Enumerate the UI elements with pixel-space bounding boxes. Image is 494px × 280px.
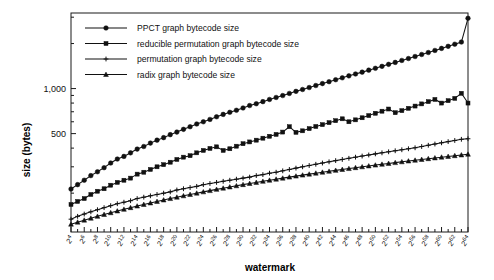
y-axis-tick-label: 500 — [51, 129, 66, 139]
x-axis-tick-label: 216 — [141, 233, 155, 247]
svg-text:252: 252 — [379, 233, 393, 247]
svg-text:228: 228 — [220, 233, 234, 247]
svg-text:254: 254 — [392, 233, 406, 247]
svg-text:216: 216 — [141, 233, 155, 247]
bytecode-size-line-chart: 5001,000 2426282102122142162182202222242… — [0, 0, 494, 280]
svg-text:218: 218 — [154, 233, 168, 247]
x-axis-tick-label: 264 — [458, 233, 472, 247]
x-axis-tick-label: 222 — [180, 233, 194, 247]
x-axis-tick-label: 218 — [154, 233, 168, 247]
svg-text:230: 230 — [233, 233, 247, 247]
svg-text:232: 232 — [247, 233, 261, 247]
x-axis-tick-label: 250 — [366, 233, 380, 247]
y-axis-tick-labels: 5001,000 — [43, 84, 66, 139]
x-axis-title: watermark — [244, 262, 295, 273]
x-axis-tick-label: 240 — [300, 233, 314, 247]
svg-text:258: 258 — [419, 233, 433, 247]
x-axis-tick-label: 238 — [286, 233, 300, 247]
svg-text:26: 26 — [76, 233, 89, 245]
x-axis-tick-label: 224 — [194, 233, 208, 247]
x-axis-tick-label: 236 — [273, 233, 287, 247]
x-axis-tick-label: 212 — [114, 233, 128, 247]
x-axis-tick-label: 242 — [313, 233, 327, 247]
x-axis-tick-label: 246 — [339, 233, 353, 247]
x-axis-tick-label: 226 — [207, 233, 221, 247]
x-axis-tick-labels: 2426282102122142162182202222242262282302… — [63, 233, 473, 247]
x-axis-tick-label: 248 — [352, 233, 366, 247]
legend-label: radix graph bytecode size — [137, 70, 235, 80]
legend-item-3[interactable]: permutation graph bytecode size — [85, 54, 262, 64]
chart-container: 5001,000 2426282102122142162182202222242… — [0, 0, 494, 280]
y-axis-ticks — [71, 17, 76, 193]
svg-text:224: 224 — [194, 233, 208, 247]
svg-text:234: 234 — [260, 233, 274, 247]
legend-item-2[interactable]: reducible permutation graph bytecode siz… — [85, 39, 299, 49]
x-axis-tick-label: 26 — [76, 233, 89, 245]
svg-text:238: 238 — [286, 233, 300, 247]
legend-item-4[interactable]: radix graph bytecode size — [85, 70, 235, 80]
x-axis-tick-label: 262 — [445, 233, 459, 247]
svg-text:220: 220 — [167, 233, 181, 247]
svg-text:244: 244 — [326, 233, 340, 247]
x-axis-tick-label: 230 — [233, 233, 247, 247]
x-axis-tick-label: 28 — [90, 233, 103, 245]
svg-text:222: 222 — [180, 233, 194, 247]
svg-text:242: 242 — [313, 233, 327, 247]
svg-text:226: 226 — [207, 233, 221, 247]
x-axis-tick-label: 252 — [379, 233, 393, 247]
svg-text:24: 24 — [63, 233, 76, 245]
series-4 — [69, 152, 471, 226]
legend-label: reducible permutation graph bytecode siz… — [137, 39, 299, 49]
x-axis-ticks — [71, 227, 468, 232]
x-axis-tick-label: 24 — [63, 233, 76, 245]
x-axis-tick-label: 214 — [127, 233, 141, 247]
x-axis-tick-label: 228 — [220, 233, 234, 247]
x-axis-tick-label: 220 — [167, 233, 181, 247]
svg-text:28: 28 — [90, 233, 103, 245]
svg-text:240: 240 — [300, 233, 314, 247]
chart-legend: PPCT graph bytecode sizereducible permut… — [85, 23, 299, 80]
x-axis-tick-label: 260 — [432, 233, 446, 247]
svg-text:264: 264 — [458, 233, 472, 247]
svg-text:256: 256 — [405, 233, 419, 247]
svg-text:210: 210 — [101, 233, 115, 247]
x-axis-tick-label: 258 — [419, 233, 433, 247]
legend-item-1[interactable]: PPCT graph bytecode size — [85, 23, 239, 33]
legend-label: permutation graph bytecode size — [137, 54, 262, 64]
svg-text:246: 246 — [339, 233, 353, 247]
x-axis-tick-label: 256 — [405, 233, 419, 247]
svg-text:250: 250 — [366, 233, 380, 247]
svg-text:214: 214 — [127, 233, 141, 247]
svg-text:260: 260 — [432, 233, 446, 247]
svg-text:262: 262 — [445, 233, 459, 247]
x-axis-tick-label: 210 — [101, 233, 115, 247]
svg-text:212: 212 — [114, 233, 128, 247]
x-axis-tick-label: 232 — [247, 233, 261, 247]
svg-text:248: 248 — [352, 233, 366, 247]
legend-label: PPCT graph bytecode size — [137, 23, 239, 33]
x-axis-tick-label: 244 — [326, 233, 340, 247]
x-axis-tick-label: 234 — [260, 233, 274, 247]
y-axis-title: size (bytes) — [21, 123, 32, 177]
y-axis-tick-label: 1,000 — [43, 84, 66, 94]
svg-text:236: 236 — [273, 233, 287, 247]
x-axis-tick-label: 254 — [392, 233, 406, 247]
